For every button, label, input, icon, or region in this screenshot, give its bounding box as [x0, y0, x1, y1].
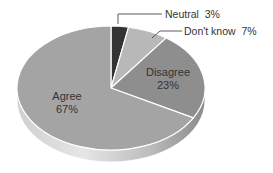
- agree-label: Agree: [52, 90, 81, 102]
- dontknow-label: Don't know 7%: [184, 25, 257, 37]
- disagree-pct: 23%: [157, 79, 179, 91]
- neutral-label: Neutral 3%: [165, 8, 220, 20]
- neutral-leader-line: [118, 14, 162, 24]
- disagree-label: Disagree: [146, 66, 190, 78]
- agree-pct: 67%: [56, 103, 78, 115]
- pie-chart: Neutral 3% Don't know 7% Disagree 23% Ag…: [0, 0, 273, 173]
